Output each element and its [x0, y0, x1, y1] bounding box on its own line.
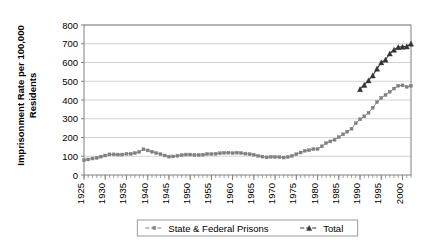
data-point-marker — [316, 147, 319, 150]
y-axis: 0100200300400500600700800 — [62, 20, 84, 181]
data-point-marker — [354, 122, 357, 125]
data-point-marker — [252, 153, 255, 156]
data-point-marker — [320, 145, 323, 148]
data-point-marker — [410, 84, 413, 87]
data-point-marker — [346, 130, 349, 133]
data-point-marker — [83, 159, 86, 162]
data-point-marker — [388, 90, 391, 93]
x-tick-label: 1965 — [245, 183, 256, 204]
data-point-marker — [367, 111, 370, 114]
data-point-marker — [405, 85, 408, 88]
y-tick-label: 100 — [62, 151, 78, 162]
data-point-marker — [206, 153, 209, 156]
data-point-marker — [359, 118, 362, 121]
data-point-marker — [363, 115, 366, 118]
imprisonment-rate-chart: Imprisonment Rate per 100,000 Residents … — [0, 0, 434, 247]
data-point-marker — [265, 156, 268, 159]
data-point-marker — [138, 150, 141, 153]
data-point-marker — [371, 106, 374, 109]
data-point-marker — [91, 157, 94, 160]
data-point-marker — [384, 93, 387, 96]
y-tick-label: 200 — [62, 132, 78, 143]
y-tick-label: 700 — [62, 38, 78, 49]
data-point-marker — [227, 151, 230, 154]
data-point-marker — [244, 152, 247, 155]
data-point-marker — [329, 140, 332, 143]
data-point-marker — [155, 152, 158, 155]
data-point-marker — [274, 156, 277, 159]
y-tick-label: 400 — [62, 95, 78, 106]
data-point-marker — [248, 153, 251, 156]
x-tick-label: 1970 — [266, 183, 277, 204]
data-point-marker — [180, 154, 183, 157]
data-point-marker — [235, 151, 238, 154]
x-tick-label: 1950 — [181, 183, 192, 204]
data-point-marker — [129, 152, 132, 155]
data-point-marker — [125, 152, 128, 155]
data-point-marker — [295, 153, 298, 156]
data-point-marker — [159, 153, 162, 156]
data-point-marker — [121, 153, 124, 156]
x-tick-label: 1940 — [139, 183, 150, 204]
x-tick-label: 1960 — [224, 183, 235, 204]
data-point-marker — [193, 153, 196, 156]
data-point-marker — [257, 154, 260, 157]
legend-label: Total — [323, 223, 343, 234]
data-point-marker — [401, 84, 404, 87]
data-point-marker — [342, 133, 345, 136]
data-point-marker — [291, 154, 294, 157]
data-point-marker — [104, 154, 107, 157]
data-point-marker — [370, 73, 375, 78]
data-point-marker — [269, 155, 272, 158]
x-tick-label: 1985 — [330, 183, 341, 204]
data-point-marker — [146, 149, 149, 152]
series-2 — [357, 41, 413, 92]
x-axis: 1925193019351940194519501955196019651970… — [75, 175, 405, 204]
x-tick-label: 1930 — [96, 183, 107, 204]
data-point-marker — [231, 152, 234, 155]
data-point-marker — [214, 152, 217, 155]
data-point-marker — [197, 153, 200, 156]
data-point-marker — [337, 136, 340, 139]
y-tick-label: 0 — [73, 170, 78, 181]
data-point-marker — [153, 227, 156, 230]
y-tick-label: 600 — [62, 57, 78, 68]
data-point-marker — [278, 156, 281, 159]
data-point-marker — [108, 153, 111, 156]
legend: State & Federal PrisonsTotal — [137, 220, 357, 236]
x-tick-label: 1990 — [351, 183, 362, 204]
x-tick-label: 2000 — [394, 183, 405, 204]
data-point-marker — [112, 153, 115, 156]
data-point-marker — [99, 155, 102, 158]
data-point-marker — [397, 84, 400, 87]
y-tick-label: 300 — [62, 113, 78, 124]
data-point-marker — [393, 87, 396, 90]
data-point-marker — [218, 152, 221, 155]
data-point-marker — [308, 149, 311, 152]
data-point-marker — [142, 148, 145, 151]
data-point-marker — [133, 152, 136, 155]
x-tick-label: 1980 — [309, 183, 320, 204]
data-point-marker — [350, 127, 353, 130]
x-tick-label: 1955 — [202, 183, 213, 204]
data-point-marker — [261, 155, 264, 158]
data-point-marker — [116, 153, 119, 156]
data-point-marker — [299, 151, 302, 154]
data-point-marker — [172, 155, 175, 158]
data-point-marker — [163, 154, 166, 157]
data-point-marker — [184, 153, 187, 156]
data-point-marker — [286, 156, 289, 159]
y-tick-label: 800 — [62, 20, 78, 31]
x-tick-label: 1995 — [372, 183, 383, 204]
series-1 — [83, 84, 413, 162]
data-point-marker — [325, 142, 328, 145]
data-point-marker — [380, 96, 383, 99]
x-tick-label: 1925 — [75, 183, 86, 204]
chart-canvas: 0100200300400500600700800192519301935194… — [0, 0, 434, 247]
data-point-marker — [176, 154, 179, 157]
data-point-marker — [201, 153, 204, 156]
data-point-marker — [282, 156, 285, 159]
data-point-marker — [167, 155, 170, 158]
data-point-marker — [303, 149, 306, 152]
y-tick-label: 500 — [62, 76, 78, 87]
